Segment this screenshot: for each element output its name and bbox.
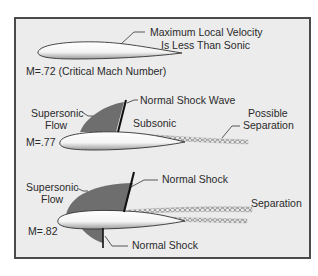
airfoil-2 [60,132,185,150]
callout-text-line1: Maximum Local Velocity [150,26,263,38]
supersonic-flow-label-2b: Flow [45,119,68,131]
upper-normal-shock-label: Normal Shock [162,173,229,185]
panel-mach-82: Normal Shock Normal Shock Supersonic Flo… [26,172,302,251]
supersonic-flow-label-2a: Supersonic [31,107,84,119]
transonic-flow-diagram: Maximum Local Velocity Is Less Than Soni… [0,0,318,276]
possible-separation-label-b: Separation [243,119,294,131]
lower-shock-leader-3 [105,236,128,246]
upper-shock-leader-3 [131,180,158,187]
supersonic-leader-3 [77,188,88,191]
callout-leader-1 [121,32,145,44]
callout-text-line2: Is Less Than Sonic [161,39,250,51]
supersonic-flow-label-3a: Supersonic [26,181,79,193]
supersonic-region-2 [80,102,124,132]
mach-label-77: M=.77 [26,136,56,148]
possible-separation-label-a: Possible [248,107,288,119]
shock-leader-2 [127,100,138,103]
separation-leader-2 [222,126,240,138]
mach-label-72: M=.72 (Critical Mach Number) [26,65,166,77]
separation-label: Separation [251,197,302,209]
supersonic-flow-label-3b: Flow [41,193,64,205]
panel-critical-mach: Maximum Local Velocity Is Less Than Soni… [26,26,263,77]
panel-mach-77: Normal Shock Wave Supersonic Flow Subson… [26,94,294,150]
lower-normal-shock-label: Normal Shock [132,239,199,251]
supersonic-leader-2 [82,112,93,116]
mach-label-82: M=.82 [28,225,58,237]
subsonic-label: Subsonic [133,117,176,129]
normal-shock-wave-label: Normal Shock Wave [140,94,235,106]
airfoil-3 [58,210,185,229]
